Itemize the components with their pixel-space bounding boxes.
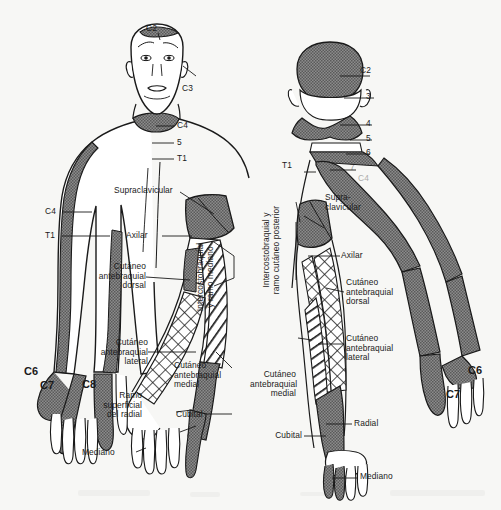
finger [51,414,62,454]
finger [473,378,483,416]
label-posterior-c2: C2 [360,66,371,76]
label-posterior-intercostobraquial: Intercostobraquial y ramo cutáneo poster… [262,190,281,310]
label-anterior-cubital: Cubital [176,410,203,420]
posterior-ear-left [288,90,299,107]
label-posterior-axilar: Axilar [341,251,363,261]
finger [144,430,155,474]
label-posterior-5: 5 [366,134,371,144]
label-posterior-cubital: Cubital [256,431,302,441]
label-anterior-mediano: Mediano [82,448,115,458]
anatomy-diagram-page: C2 C3 C4 5 T1 C4 T1 C6 C7 C8 Supraclavic… [0,0,501,510]
finger [168,428,179,468]
label-anterior-cutaneo-lateral: Cutáneo antebraquial lateral [96,338,148,367]
label-anterior-c4-arm: C4 [45,207,56,217]
label-posterior-3: 3 [366,92,371,102]
posterior-hand-c7 [420,354,445,415]
finger [460,382,471,424]
label-posterior-4: 4 [366,119,371,129]
posterior-figure [288,42,483,500]
posterior-arm-strip-inner [402,268,440,356]
label-posterior-supraclavicular: Supra- clavicular [325,193,361,212]
label-anterior-c8: C8 [82,380,96,390]
label-posterior-t1: T1 [282,161,292,171]
label-posterior-cutaneo-dorsal: Cutáneo antebraquial dorsal [346,278,393,307]
pupil-left [144,56,148,60]
label-posterior-7: 7 [350,163,355,173]
label-anterior-supraclavicular: Supraclavicular [114,186,173,196]
anterior-sternum-line [156,162,160,268]
label-anterior-c4-neck: C4 [177,121,188,131]
posterior-c5-band [310,143,362,152]
finger [346,466,356,500]
label-anterior-intercostobraquial: Intercostobraquial y ramo mediano [196,224,215,330]
label-anterior-c6: C6 [24,367,38,377]
label-posterior-cutaneo-medial: Cutáneo antebraquial medial [250,370,296,399]
label-anterior-t1-chest: T1 [177,154,187,164]
label-anterior-t1-arm: T1 [45,231,55,241]
neck-right [178,104,180,119]
label-anterior-c5: 5 [177,138,182,148]
anatomy-illustration [0,0,501,510]
label-anterior-ramo-superficial-radial: Ramo superficial del radial [80,391,142,420]
anterior-cubital-hand [186,410,206,478]
label-posterior-6: 6 [366,148,371,158]
label-posterior-radial: Radial [354,419,378,429]
mouth [148,86,166,91]
anterior-figure [37,24,249,478]
finger [63,418,74,464]
pupil-right [167,56,171,60]
label-anterior-c3: C3 [182,84,193,94]
finger [156,430,167,474]
label-anterior-axilar: Axilar [126,231,148,241]
label-posterior-c4: C4 [358,174,369,184]
label-posterior-mediano: Mediano [360,472,393,482]
finger [324,464,334,498]
label-anterior-cutaneo-dorsal: Cutáneo antebraquial dorsal [94,262,146,291]
finger [132,428,143,468]
label-posterior-c7: C7 [446,390,460,400]
label-posterior-cutaneo-lateral: Cutáneo antebraquial lateral [346,334,393,363]
label-anterior-c2: C2 [146,24,157,34]
posterior-head-dermatome [297,42,363,101]
label-posterior-c6: C6 [468,366,482,376]
label-anterior-c7: C7 [40,381,54,391]
finger [335,466,345,500]
posterior-arm-strip-outer [446,276,480,356]
label-anterior-cutaneo-medial: Cutáneo antebraquial medial [174,361,221,390]
